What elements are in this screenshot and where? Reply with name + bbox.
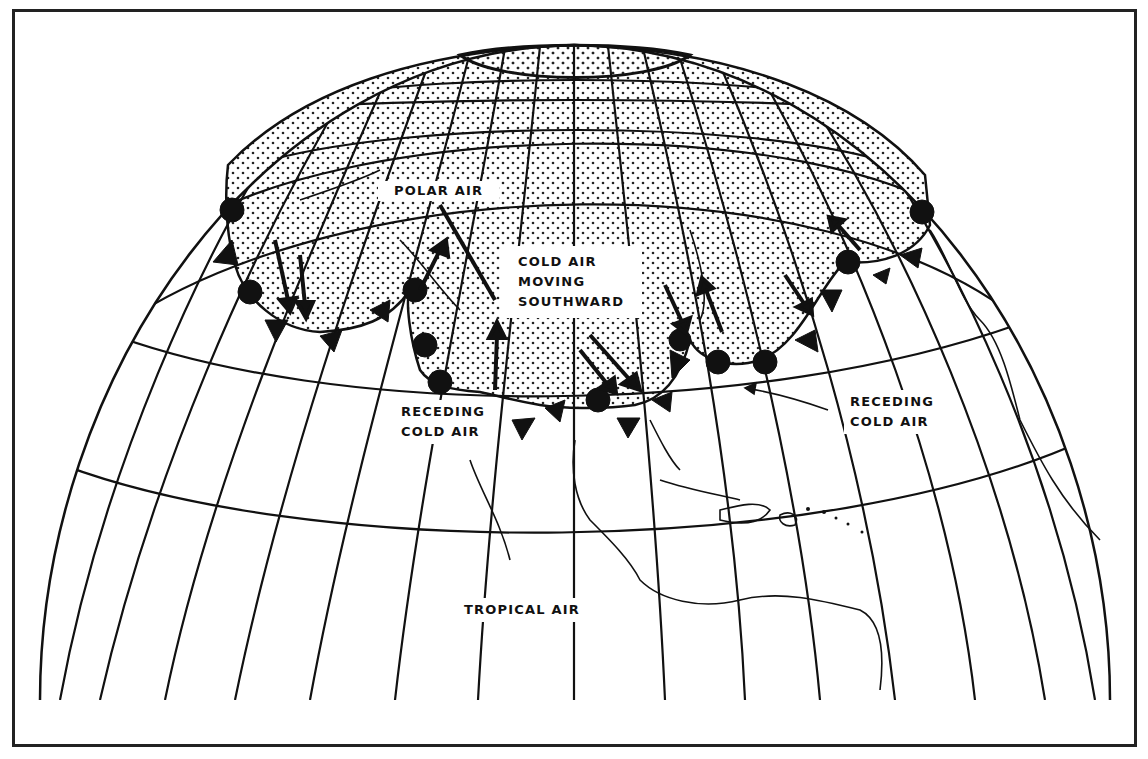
label-line-3: SOUTHWARD [518,292,624,312]
globe-map [0,0,1148,759]
label-line-2: MOVING [518,272,624,292]
label-line-2: COLD AIR [850,412,934,432]
label-receding-cold-air-right: RECEDING COLD AIR [844,390,940,434]
island-chain [806,507,864,534]
label-polar-air: POLAR AIR [378,181,499,201]
label-line-1: RECEDING [850,392,934,412]
receding-arrow-right [745,383,828,410]
label-line-1: RECEDING [401,402,485,422]
label-line-2: COLD AIR [401,422,485,442]
label-cold-air-moving-southward: COLD AIR MOVING SOUTHWARD [500,246,642,318]
label-tropical-air: TROPICAL AIR [458,598,586,622]
label-line-1: COLD AIR [518,252,624,272]
label-receding-cold-air-left: RECEDING COLD AIR [395,400,491,444]
